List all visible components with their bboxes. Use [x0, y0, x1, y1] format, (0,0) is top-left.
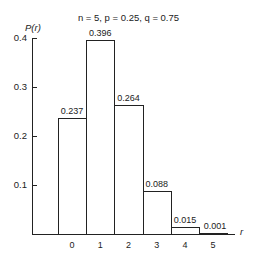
x-tick-label: 2 — [119, 240, 139, 250]
y-tick — [32, 185, 37, 186]
x-tick-label: 1 — [90, 240, 110, 250]
x-tick-label: 0 — [62, 240, 82, 250]
x-axis-label: r — [240, 226, 243, 237]
x-tick-label: 4 — [175, 240, 195, 250]
y-tick-label: 0.2 — [0, 130, 27, 141]
binomial-distribution-chart: n = 5, p = 0.25, q = 0.75 P(r) r 0.10.20… — [0, 0, 257, 257]
bar-r-0 — [58, 118, 87, 235]
bar-value-label: 0.001 — [195, 221, 235, 231]
bar-value-label: 0.396 — [80, 28, 120, 38]
y-tick-label: 0.1 — [0, 179, 27, 190]
bar-value-label: 0.088 — [137, 179, 177, 189]
x-tick-label: 5 — [203, 240, 223, 250]
bar-r-1 — [86, 40, 115, 235]
bar-r-3 — [143, 191, 172, 235]
y-tick — [32, 87, 37, 88]
y-tick — [32, 38, 37, 39]
y-tick — [32, 136, 37, 137]
y-axis-label: P(r) — [25, 22, 41, 33]
bar-r-2 — [114, 105, 143, 235]
y-tick-label: 0.3 — [0, 81, 27, 92]
y-tick-label: 0.4 — [0, 32, 27, 43]
x-tick-label: 3 — [147, 240, 167, 250]
bar-value-label: 0.264 — [109, 93, 149, 103]
bar-r-5 — [199, 233, 228, 235]
